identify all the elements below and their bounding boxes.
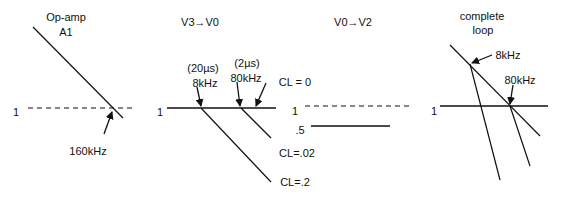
bode-diagram-canvas: Op-amp A1 1 160kHz V3→V0 1 (20µs) 8kHz (… xyxy=(0,0,563,199)
loop-subtitle: loop xyxy=(473,25,494,36)
loop-80khz-arrow xyxy=(510,85,513,104)
opamp-title: Op-amp xyxy=(46,12,86,23)
v3v0-80khz-arrow xyxy=(237,82,240,106)
loop-80khz-label: 80kHz xyxy=(504,75,535,86)
v0v2-panel-lines xyxy=(305,106,410,126)
opamp-crossover-label: 160kHz xyxy=(69,146,106,157)
opamp-crossover-arrow xyxy=(104,112,112,134)
v0v2-unity-label: 1 xyxy=(292,106,298,117)
v3v0-cl0-arrow xyxy=(256,83,266,106)
v3v0-pole1-freq: 8kHz xyxy=(192,78,217,89)
loop-unity-label: 1 xyxy=(431,106,437,117)
v0v2-gain-label: .5 xyxy=(295,125,304,136)
loop-cl2-line xyxy=(470,64,500,180)
v3v0-cl2-rolloff-line xyxy=(201,108,271,182)
v3v0-title: V3→V0 xyxy=(181,17,219,28)
loop-8khz-arrow xyxy=(472,55,492,63)
v3v0-pole2-time: (2µs) xyxy=(234,58,259,69)
loop-panel-lines xyxy=(440,45,548,180)
opamp-subtitle: A1 xyxy=(59,27,72,38)
loop-title: complete xyxy=(460,11,505,22)
v3v0-8khz-arrow xyxy=(197,87,201,106)
opamp-panel-lines xyxy=(28,27,135,134)
v3v0-unity-label: 1 xyxy=(157,107,163,118)
v3v0-cl02-rolloff-line xyxy=(241,108,271,138)
opamp-unity-label: 1 xyxy=(13,107,19,118)
v0v2-title: V0→V2 xyxy=(334,17,372,28)
loop-8khz-label: 8kHz xyxy=(495,50,520,61)
v3v0-cl0-label: CL = 0 xyxy=(279,77,311,88)
v3v0-cl2-label: CL=.2 xyxy=(280,177,310,188)
v3v0-panel-lines xyxy=(167,82,276,182)
v3v0-pole2-freq: 80kHz xyxy=(230,73,261,84)
v3v0-cl02-label: CL=.02 xyxy=(279,148,315,159)
v3v0-pole1-time: (20µs) xyxy=(187,63,218,74)
opamp-gain-rolloff-line xyxy=(33,27,123,118)
